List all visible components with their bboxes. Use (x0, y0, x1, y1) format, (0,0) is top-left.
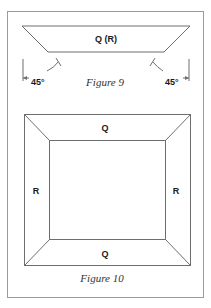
piece-label: Q (R) (95, 34, 117, 44)
left-side-label: R (33, 186, 40, 196)
bottom-side-label: Q (101, 249, 108, 259)
left-angle-label: 45° (31, 77, 45, 87)
right-angle-label: 45° (165, 77, 179, 87)
right-side-label: R (173, 186, 180, 196)
figure-9-caption: Figure 9 (85, 76, 124, 88)
diagram-canvas: Q (R) 45° 45° Figure 9 Q Q R R Figure 10 (0, 0, 211, 308)
top-side-label: Q (101, 123, 108, 133)
figure-10-caption: Figure 10 (79, 272, 124, 284)
